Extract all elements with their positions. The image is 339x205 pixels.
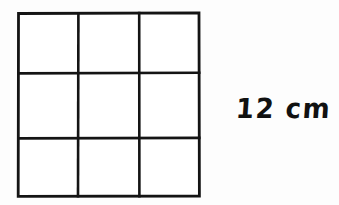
side-length-text: 12 cm — [235, 94, 332, 122]
square-grid — [16, 11, 201, 198]
grid-drawing — [16, 11, 201, 198]
grid-outer-border — [18, 13, 199, 197]
figure-canvas: 12 cm — [0, 0, 339, 205]
side-length-label: 12 cm — [236, 92, 328, 124]
grid-horizontal-line-2 — [18, 138, 199, 139]
grid-horizontal-line-1 — [18, 73, 199, 74]
